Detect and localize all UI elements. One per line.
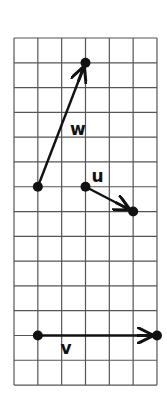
vector-end-point [128,207,138,217]
vector-start-point [33,182,43,192]
vector-label: u [91,166,103,186]
vector-label: v [60,338,71,358]
vector-start-point [33,330,43,340]
vector-end-point [152,330,162,340]
vector-label: w [70,119,86,139]
vector-start-point [80,182,90,192]
vectors: wuv [33,58,162,358]
vector-arrow [85,187,128,209]
vector-grid-diagram: wuv [0,0,167,404]
vector-v: v [33,330,162,358]
vector-end-point [80,58,90,68]
